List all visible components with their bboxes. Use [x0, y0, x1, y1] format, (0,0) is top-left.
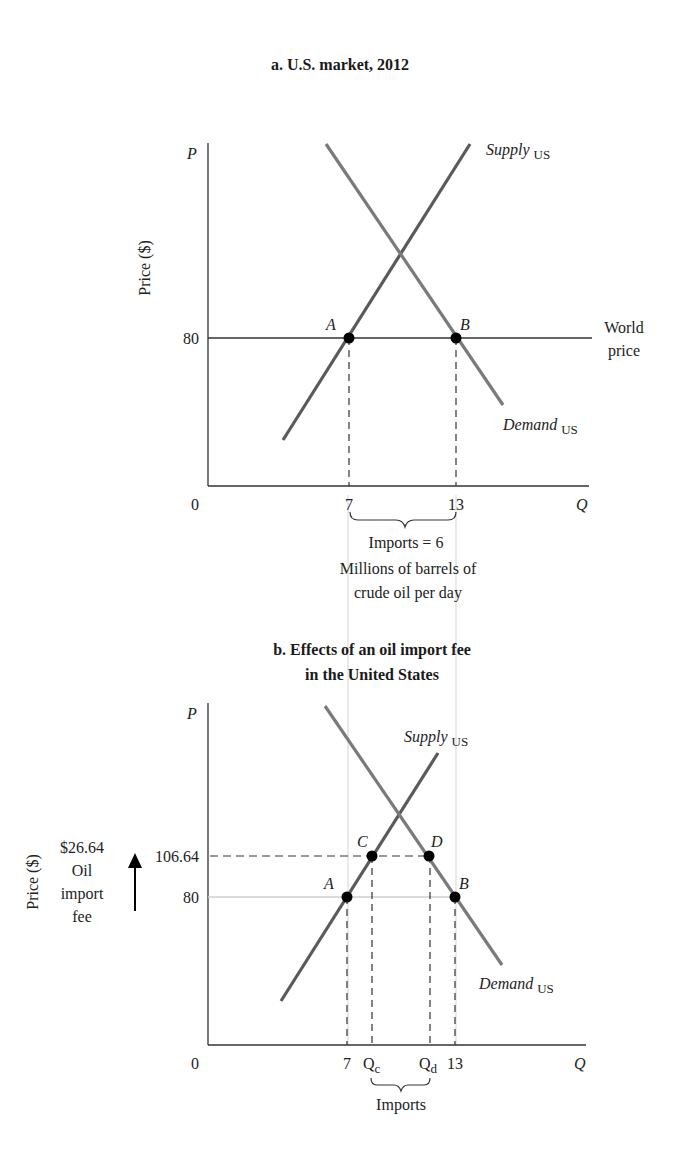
imports-brace [371, 1078, 430, 1091]
point-a-label: A [325, 316, 336, 333]
panel-b-title-2: in the United States [305, 666, 439, 683]
imports-label: Imports = 6 [369, 534, 444, 552]
x-axis-letter: Q [574, 1055, 586, 1072]
tick-qc: Qc [363, 1055, 381, 1076]
units-label-1: Millions of barrels of [340, 560, 477, 577]
supply-label: SupplyUS [404, 728, 468, 749]
point-d [424, 851, 435, 862]
panel-a: a. U.S. market, 2012 P Q 0 Price ($) 80 … [136, 56, 644, 602]
y-axis-letter: P [186, 705, 197, 722]
supply-curve [283, 144, 470, 440]
demand-label: DemandUS [502, 416, 578, 437]
panel-a-title: a. U.S. market, 2012 [271, 56, 409, 73]
origin-label: 0 [191, 496, 199, 513]
tick-qd: Qd [419, 1055, 438, 1076]
y-axis-label: Price ($) [24, 854, 42, 910]
point-d-label: D [430, 833, 443, 850]
tick-106-64: 106.64 [155, 848, 199, 865]
fee-label-2: Oil [72, 862, 93, 879]
point-b-label: B [460, 316, 470, 333]
supply-label: SupplyUS [486, 141, 550, 162]
point-b [450, 892, 461, 903]
panel-b-title-1: b. Effects of an oil import fee [273, 641, 471, 659]
demand-curve [326, 144, 503, 405]
tick-13: 13 [448, 496, 464, 513]
y-axis-label: Price ($) [136, 240, 154, 296]
y-axis-letter: P [186, 145, 197, 162]
point-a-label: A [323, 875, 334, 892]
tick-80: 80 [183, 330, 199, 347]
units-label-2: crude oil per day [354, 584, 462, 602]
panel-b: b. Effects of an oil import fee in the U… [24, 641, 586, 1114]
point-b-label: B [459, 875, 469, 892]
point-a [344, 333, 355, 344]
tick-13: 13 [447, 1055, 463, 1072]
tick-80: 80 [183, 889, 199, 906]
fee-label-4: fee [72, 908, 92, 925]
x-axis-letter: Q [576, 496, 588, 513]
imports-brace [350, 512, 456, 527]
fee-label-3: import [61, 885, 104, 903]
imports-label: Imports [376, 1096, 426, 1114]
figure: a. U.S. market, 2012 P Q 0 Price ($) 80 … [0, 0, 679, 1162]
tick-7: 7 [345, 496, 353, 513]
point-c [367, 851, 378, 862]
world-price-label-2: price [608, 342, 640, 360]
tick-7: 7 [343, 1055, 351, 1072]
point-b [451, 333, 462, 344]
point-c-label: C [357, 833, 368, 850]
demand-label: DemandUS [478, 975, 554, 996]
fee-label-1: $26.64 [60, 839, 104, 856]
supply-curve [281, 753, 438, 1001]
point-a [342, 892, 353, 903]
origin-label: 0 [191, 1055, 199, 1072]
arrow-up-head-icon [128, 853, 142, 868]
world-price-label-1: World [604, 319, 644, 336]
